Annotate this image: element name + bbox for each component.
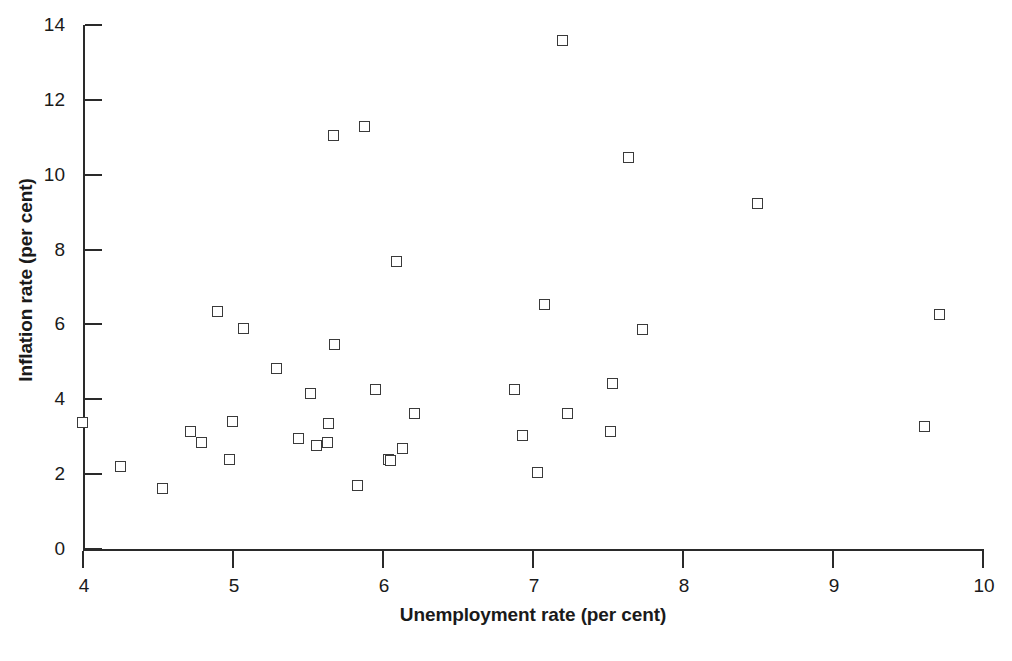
scatter-chart-figure: Inflation rate (per cent) 02468101214 45…: [0, 0, 1012, 661]
data-point-marker: [238, 323, 249, 334]
y-tick-mark: [85, 99, 102, 101]
data-point-marker: [509, 384, 520, 395]
data-point-marker: [607, 378, 618, 389]
data-point-marker: [385, 455, 396, 466]
y-tick-label: 4: [13, 389, 65, 408]
y-tick-mark: [85, 249, 102, 251]
data-point-marker: [224, 454, 235, 465]
y-tick-label: 14: [13, 15, 65, 34]
data-point-marker: [115, 461, 126, 472]
data-point-marker: [562, 408, 573, 419]
data-point-marker: [77, 417, 88, 428]
x-axis-title: Unemployment rate (per cent): [83, 604, 983, 626]
data-point-marker: [293, 433, 304, 444]
x-tick-mark: [832, 551, 834, 568]
data-point-marker: [329, 339, 340, 350]
data-point-marker: [305, 388, 316, 399]
data-point-marker: [196, 437, 207, 448]
y-tick-label: 2: [13, 464, 65, 483]
x-tick-label: 5: [204, 576, 264, 595]
data-point-marker: [934, 309, 945, 320]
x-tick-mark: [682, 551, 684, 568]
x-tick-label: 7: [504, 576, 564, 595]
data-point-marker: [227, 416, 238, 427]
data-point-marker: [397, 443, 408, 454]
y-tick-mark: [85, 548, 102, 550]
data-point-marker: [323, 418, 334, 429]
data-point-marker: [752, 198, 763, 209]
y-tick-label: 0: [13, 539, 65, 558]
y-tick-label: 6: [13, 314, 65, 333]
data-point-marker: [370, 384, 381, 395]
data-point-marker: [185, 426, 196, 437]
data-point-marker: [322, 437, 333, 448]
data-point-marker: [311, 440, 322, 451]
y-tick-mark: [85, 24, 102, 26]
data-point-marker: [557, 35, 568, 46]
y-tick-label: 8: [13, 240, 65, 259]
data-point-marker: [623, 152, 634, 163]
x-tick-mark: [232, 551, 234, 568]
data-point-marker: [409, 408, 420, 419]
data-point-marker: [605, 426, 616, 437]
x-tick-mark: [982, 551, 984, 568]
x-tick-label: 6: [354, 576, 414, 595]
y-tick-mark: [85, 398, 102, 400]
data-point-marker: [391, 256, 402, 267]
data-point-marker: [637, 324, 648, 335]
data-point-marker: [352, 480, 363, 491]
data-point-marker: [919, 421, 930, 432]
y-axis-line: [83, 25, 85, 551]
data-point-marker: [157, 483, 168, 494]
x-tick-mark: [532, 551, 534, 568]
x-tick-label: 9: [804, 576, 864, 595]
x-tick-mark: [382, 551, 384, 568]
x-tick-label: 4: [54, 576, 114, 595]
y-tick-label: 12: [13, 90, 65, 109]
data-point-marker: [359, 121, 370, 132]
data-point-marker: [539, 299, 550, 310]
plot-area: 02468101214 45678910: [83, 25, 983, 549]
y-tick-mark: [85, 323, 102, 325]
x-tick-label: 8: [654, 576, 714, 595]
y-tick-mark: [85, 174, 102, 176]
data-point-marker: [328, 130, 339, 141]
x-tick-mark: [82, 551, 84, 568]
data-point-marker: [271, 363, 282, 374]
y-tick-mark: [85, 473, 102, 475]
data-point-marker: [517, 430, 528, 441]
y-tick-label: 10: [13, 165, 65, 184]
data-point-marker: [532, 467, 543, 478]
data-point-marker: [212, 306, 223, 317]
x-tick-label: 10: [954, 576, 1012, 595]
